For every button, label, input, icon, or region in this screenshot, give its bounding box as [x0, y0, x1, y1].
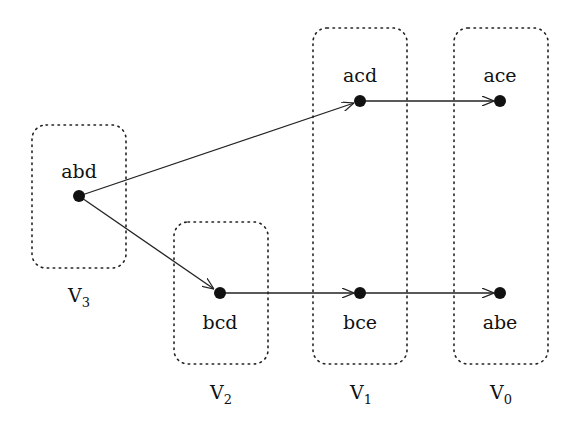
- node-label-abe: abe: [483, 311, 518, 333]
- node-abe: [494, 287, 506, 299]
- node-acd: [354, 95, 366, 107]
- group-label-v1: V1: [349, 381, 372, 407]
- node-label-bcd: bcd: [203, 311, 238, 333]
- edge-abd-bcd: [79, 196, 214, 289]
- node-abd: [73, 190, 85, 202]
- node-label-acd: acd: [343, 64, 377, 86]
- node-bcd: [214, 287, 226, 299]
- node-label-ace: ace: [483, 64, 516, 86]
- node-label-bce: bce: [343, 311, 377, 333]
- group-label-v3: V3: [67, 284, 90, 310]
- group-label-v0: V0: [489, 381, 512, 407]
- group-label-v2: V2: [209, 381, 232, 407]
- layered-graph-diagram: abd bcd acd bce ace abe V3 V2 V1 V0: [0, 0, 572, 427]
- node-label-abd: abd: [61, 160, 97, 182]
- node-ace: [494, 95, 506, 107]
- node-bce: [354, 287, 366, 299]
